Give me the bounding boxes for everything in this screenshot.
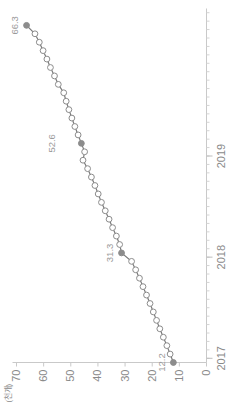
series-point-highlighted (118, 250, 124, 256)
series-point (140, 283, 146, 289)
series-point (47, 64, 53, 70)
series-point (106, 216, 112, 222)
value-axis-tick-label: 10 (172, 369, 184, 406)
value-axis-tick-label: 0 (199, 369, 211, 406)
data-point-label: 12.2 (155, 350, 166, 374)
series-point (63, 98, 69, 104)
series-point (156, 325, 162, 331)
chart-canvas: (천개) 01020304050607020172018201912.231.3… (0, 0, 247, 406)
value-axis-tick-label: 60 (36, 369, 48, 406)
series-point (65, 106, 71, 112)
value-axis-tick-label: 50 (63, 369, 75, 406)
series-point (132, 266, 138, 272)
series-point (40, 47, 46, 53)
series-point (143, 292, 149, 298)
series-point-highlighted (23, 22, 29, 28)
data-point-label: 52.6 (45, 131, 56, 155)
data-point-label: 31.3 (103, 240, 114, 264)
series-point-highlighted (170, 359, 176, 365)
line-chart-plot-area: (천개) 01020304050607020172018201912.231.3… (0, 0, 247, 406)
series-point (102, 207, 108, 213)
time-axis-tick-label: 2019 (214, 142, 226, 170)
series-point (71, 123, 77, 129)
series-point (150, 309, 156, 315)
series-point (136, 275, 142, 281)
time-axis-tick-label: 2018 (214, 243, 226, 271)
series-point (92, 182, 98, 188)
series-point-highlighted (78, 140, 84, 146)
series-point (68, 115, 74, 121)
chart-svg (0, 0, 247, 406)
series-point (167, 351, 173, 357)
data-point-label: 66.3 (8, 13, 19, 37)
series-point (44, 56, 50, 62)
series-point (98, 199, 104, 205)
series-point (60, 89, 66, 95)
series-point (116, 241, 122, 247)
series-point (109, 224, 115, 230)
series-point (88, 174, 94, 180)
series-point (95, 191, 101, 197)
series-point (36, 39, 42, 45)
rotated-figure-group: (천개) 01020304050607020172018201912.231.3… (0, 0, 247, 406)
time-axis-tick-label: 2017 (214, 344, 226, 372)
value-axis-tick-label: 70 (9, 369, 21, 406)
series-point (75, 132, 81, 138)
value-axis-tick-label: 30 (118, 369, 130, 406)
series-point (163, 342, 169, 348)
series-point (81, 148, 87, 154)
series-point (80, 157, 86, 163)
value-axis-tick-label: 40 (90, 369, 102, 406)
series-point (55, 81, 61, 87)
series-point (147, 300, 153, 306)
value-axis-tick-label: 20 (145, 369, 157, 406)
series-point (113, 233, 119, 239)
series-point (84, 165, 90, 171)
series-point (160, 334, 166, 340)
series-point (51, 73, 57, 79)
series-point (153, 317, 159, 323)
